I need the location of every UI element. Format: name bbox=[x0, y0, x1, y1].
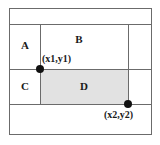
coordinate-label-x1y1: (x1,y1) bbox=[42, 54, 71, 64]
region-label-c: C bbox=[16, 81, 34, 92]
point-marker-x1y1 bbox=[36, 65, 44, 73]
region-label-a: A bbox=[16, 40, 34, 51]
point-marker-x2y2 bbox=[124, 100, 132, 108]
divider-line-vertical-right bbox=[128, 24, 129, 104]
divider-line-middle bbox=[9, 69, 152, 70]
divider-line-vertical-left bbox=[40, 24, 41, 104]
diagram-canvas: A B C D (x1,y1) (x2,y2) bbox=[0, 0, 160, 145]
region-label-b: B bbox=[70, 34, 88, 45]
coordinate-label-x2y2: (x2,y2) bbox=[104, 110, 133, 120]
region-label-d: D bbox=[75, 81, 93, 92]
divider-line-top bbox=[9, 24, 152, 25]
